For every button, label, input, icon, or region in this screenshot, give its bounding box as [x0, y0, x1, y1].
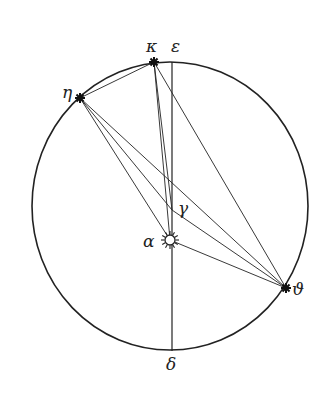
line-kappa-theta — [154, 62, 286, 288]
label-alpha: α — [143, 231, 155, 251]
theta-star-icon — [281, 283, 291, 293]
label-delta: δ — [166, 354, 176, 374]
line-kappa-alpha — [154, 62, 170, 240]
celestial-circle — [32, 62, 308, 350]
point-markers — [75, 57, 291, 293]
line-eta-kappa — [80, 62, 154, 98]
kappa-star-icon — [149, 57, 159, 67]
line-kappa-gamma — [154, 62, 172, 210]
line-alpha-theta — [170, 240, 286, 288]
line-eta-theta — [80, 98, 286, 288]
connecting-lines — [80, 62, 286, 288]
label-theta: ϑ — [292, 279, 304, 299]
label-epsilon: ε — [171, 36, 180, 56]
astronomical-diagram: κεηγαϑδ — [0, 0, 332, 395]
label-eta: η — [62, 82, 73, 102]
eta-star-icon — [75, 93, 85, 103]
point-labels: κεηγαϑδ — [62, 36, 304, 374]
line-eta-gamma — [80, 98, 172, 210]
label-gamma: γ — [178, 198, 189, 218]
line-gamma-theta — [172, 210, 286, 288]
alpha-sun-icon — [161, 231, 179, 249]
label-kappa: κ — [145, 36, 157, 56]
